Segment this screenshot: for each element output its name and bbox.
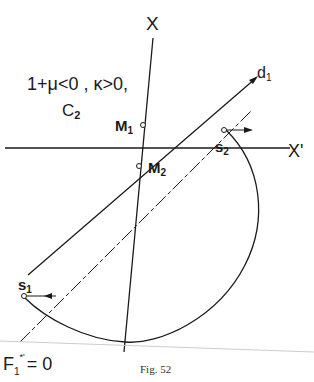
point-m1 [141, 123, 146, 128]
point-m2 [137, 164, 142, 169]
label-axis-x: X [146, 13, 159, 34]
label-s1: s1 [18, 276, 32, 295]
condition-line-2: C2 [62, 101, 80, 121]
label-m1: M1 [115, 117, 134, 136]
axis-x-line [124, 38, 153, 352]
label-axis-x-prime: X' [288, 141, 303, 161]
condition-line-1: 1+μ<0 , κ>0, [27, 74, 128, 94]
arrow-s1-icon [44, 293, 52, 299]
label-s2: s2 [215, 138, 229, 157]
label-d1: d1 [257, 64, 272, 83]
label-m2: M2 [148, 159, 167, 178]
label-f1-star-zero: F1*'= 0 [3, 352, 52, 377]
figure-caption: Fig. 52 [140, 363, 171, 375]
arrow-s2-icon [244, 127, 253, 133]
diagram-canvas: X X' d1 M1 M2 s2 s1 F1*'= 0 1+μ<0 , κ>0,… [0, 0, 314, 382]
page-baseline [0, 341, 314, 352]
point-s2 [222, 128, 227, 133]
